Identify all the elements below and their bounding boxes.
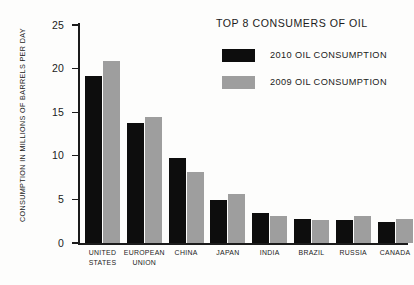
category-label: CANADA — [368, 248, 414, 258]
y-tick-label-20: 20 — [18, 62, 64, 74]
y-tick-label-15: 15 — [18, 106, 64, 118]
y-tick-10 — [72, 155, 79, 156]
bar — [336, 220, 353, 243]
bar — [312, 220, 329, 243]
bar — [294, 219, 311, 243]
y-tick-15 — [72, 112, 79, 113]
bar — [270, 216, 287, 243]
legend-label-2009: 2009 OIL CONSUMPTION — [270, 77, 387, 87]
y-tick-20 — [72, 68, 79, 69]
bar — [187, 172, 204, 244]
y-axis-title: CONSUMPTION IN MILLIONS OF BARRELS PER D… — [16, 0, 30, 250]
bar — [85, 76, 102, 243]
bar — [103, 61, 120, 243]
y-axis-line — [78, 23, 80, 244]
bar — [127, 123, 144, 243]
bar — [145, 117, 162, 243]
y-tick-label-10: 10 — [18, 149, 64, 161]
legend-swatch-2009-icon — [222, 76, 255, 89]
y-tick-5 — [72, 199, 79, 200]
bar — [228, 194, 245, 243]
bar — [354, 216, 371, 243]
legend-label-2010: 2010 OIL CONSUMPTION — [270, 50, 387, 60]
y-tick-label-25: 25 — [18, 19, 64, 31]
chart-title: TOP 8 CONSUMERS OF OIL — [216, 17, 368, 29]
bar — [396, 219, 413, 243]
bar — [169, 158, 186, 243]
bar — [210, 200, 227, 243]
y-tick-25 — [72, 24, 79, 25]
bar-chart-figure: CONSUMPTION IN MILLIONS OF BARRELS PER D… — [0, 0, 414, 285]
y-tick-label-0: 0 — [18, 237, 64, 249]
legend-swatch-2010-icon — [222, 49, 255, 62]
x-axis-line — [78, 243, 408, 245]
y-tick-0 — [72, 242, 79, 243]
bar — [378, 222, 395, 243]
bar — [252, 213, 269, 243]
y-tick-label-5: 5 — [18, 193, 64, 205]
